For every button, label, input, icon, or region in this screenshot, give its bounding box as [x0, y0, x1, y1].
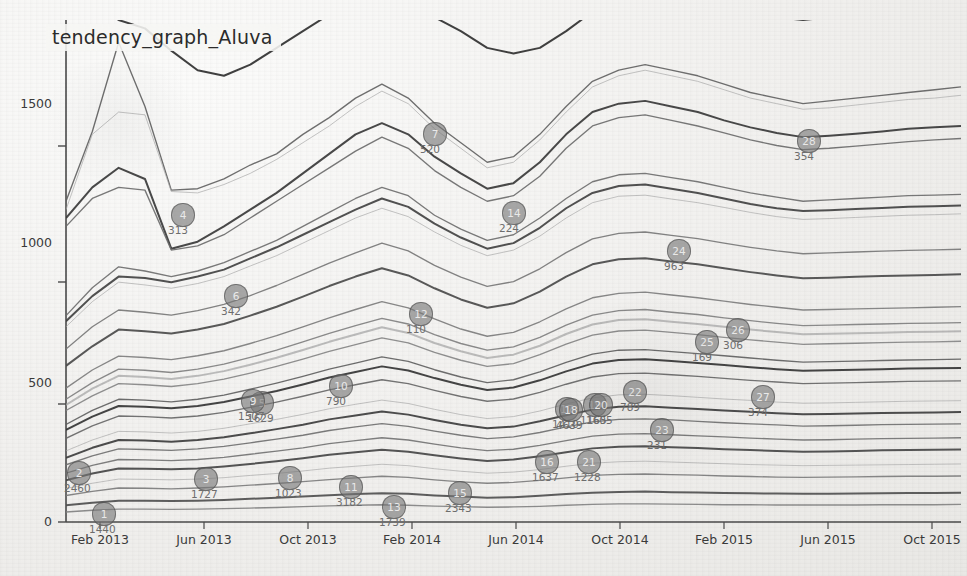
annotation-bubble-label: 963 — [664, 260, 684, 272]
y-tick-label: 1500 — [6, 96, 52, 111]
series-line — [66, 70, 961, 209]
annotation-bubble-label: 224 — [499, 222, 519, 234]
series-line — [66, 406, 961, 458]
annotation-bubble-label: 110 — [406, 323, 426, 335]
y-tick-label: 1000 — [6, 235, 52, 250]
annotation-bubble-label: 520 — [420, 143, 440, 155]
x-tick-label: Jun 2014 — [471, 532, 561, 547]
series-line — [66, 232, 961, 349]
annotation-bubble-label: 1637 — [532, 471, 559, 483]
series-line — [66, 42, 961, 201]
series-line — [66, 504, 961, 512]
series-line — [66, 292, 961, 388]
x-tick-label: Oct 2015 — [887, 532, 967, 547]
annotation-bubble-label: 1605 — [586, 414, 613, 426]
annotation-bubble-label: 2460 — [64, 482, 91, 494]
page-title: tendency_graph_Aluva — [46, 24, 281, 51]
x-tick-label: Oct 2013 — [263, 532, 353, 547]
annotation-bubble-label: 1228 — [574, 471, 601, 483]
annotation-bubble-label: 790 — [326, 395, 346, 407]
series-line — [66, 394, 961, 451]
chart-series-layer — [66, 0, 961, 512]
annotation-bubble-label: 354 — [794, 150, 814, 162]
annotation-bubble-label: 1727 — [191, 488, 218, 500]
annotation-bubble-label: 169 — [692, 351, 712, 363]
x-tick-label: Jun 2013 — [159, 532, 249, 547]
chart-axes — [58, 20, 961, 529]
annotation-bubble-label: 306 — [723, 339, 743, 351]
x-tick-label: Feb 2015 — [679, 532, 769, 547]
annotation-bubble-label: 342 — [221, 305, 241, 317]
x-tick-label: Jun 2015 — [783, 532, 873, 547]
annotation-bubble-label: 1023 — [275, 487, 302, 499]
series-line — [66, 258, 961, 366]
tendency-line-chart — [0, 0, 967, 576]
annotation-bubble-label: 2343 — [445, 502, 472, 514]
annotation-bubble-label: 231 — [647, 439, 667, 451]
annotation-bubble-label: 789 — [620, 401, 640, 413]
x-tick-label: Feb 2014 — [367, 532, 457, 547]
series-line — [66, 359, 961, 430]
y-tick-label: 0 — [6, 514, 52, 529]
annotation-bubble-label: 1507 — [238, 410, 265, 422]
x-tick-label: Oct 2014 — [575, 532, 665, 547]
annotation-bubble-label: 3182 — [336, 496, 363, 508]
annotation-bubble-label: 374 — [748, 406, 768, 418]
y-tick-label: 500 — [6, 375, 52, 390]
annotation-bubble-label: 1739 — [379, 516, 406, 528]
annotation-bubble-label: 313 — [168, 224, 188, 236]
annotation-bubble-label: 1440 — [89, 523, 116, 535]
annotation-bubble-label: 4639 — [556, 419, 583, 431]
chart-page: tendency_graph_Aluva 050010001500 Feb 20… — [0, 0, 967, 576]
